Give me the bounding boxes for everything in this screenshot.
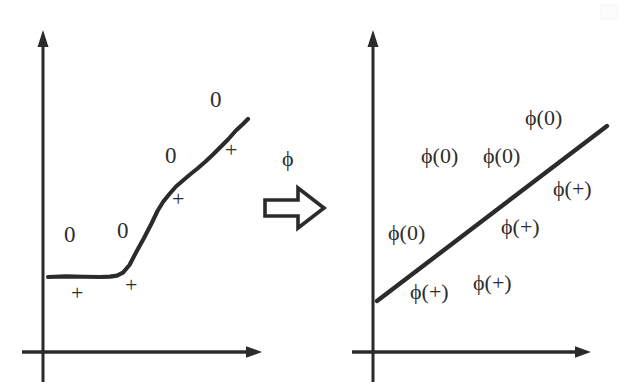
input-x-axis-arrowhead-icon xyxy=(246,346,262,358)
feature-space-panel: ϕ(0) ϕ(0) ϕ(0) ϕ(+) ϕ(0) ϕ(+) ϕ(+) ϕ(+) xyxy=(336,0,636,386)
hollow-right-arrow-icon xyxy=(262,184,328,232)
input-y-axis-arrowhead-icon xyxy=(38,30,49,47)
input-space-plot xyxy=(0,0,300,386)
input-label-class-plus: + xyxy=(125,274,137,296)
feature-label-phi-zero: ϕ(0) xyxy=(483,145,520,167)
input-label-class-plus: + xyxy=(172,188,184,210)
input-label-class-zero: 0 xyxy=(210,88,222,111)
feature-label-phi-zero: ϕ(0) xyxy=(388,222,425,244)
input-label-class-plus: + xyxy=(225,139,237,161)
feature-label-phi-plus: ϕ(+) xyxy=(473,272,512,294)
feature-label-phi-plus: ϕ(+) xyxy=(410,281,449,303)
transform-group: ϕ xyxy=(262,148,342,238)
transform-phi-label: ϕ xyxy=(282,148,294,170)
feature-label-phi-plus: ϕ(+) xyxy=(553,178,592,200)
input-label-class-zero: 0 xyxy=(64,223,76,246)
feature-label-phi-plus: ϕ(+) xyxy=(501,216,540,238)
input-decision-boundary xyxy=(48,119,248,277)
feature-x-axis-arrowhead-icon xyxy=(575,346,591,358)
input-space-panel: 0 0 0 0 + + + + xyxy=(0,0,300,386)
input-label-class-plus: + xyxy=(71,282,83,304)
input-label-class-zero: 0 xyxy=(165,144,177,167)
feature-y-axis-arrowhead-icon xyxy=(368,30,379,47)
figure-root: 0 0 0 0 + + + + ϕ ϕ(0) ϕ(0) ϕ(0) ϕ(+) ϕ(… xyxy=(0,0,636,386)
feature-label-phi-zero: ϕ(0) xyxy=(421,145,458,167)
feature-label-phi-zero: ϕ(0) xyxy=(525,107,562,129)
scan-artifact xyxy=(600,4,618,20)
input-label-class-zero: 0 xyxy=(117,219,129,242)
